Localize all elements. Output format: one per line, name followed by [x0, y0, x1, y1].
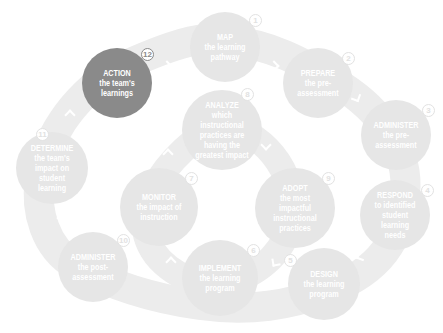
step-1-map-learning-pathway: 1 MAPthe learning pathway: [190, 12, 260, 82]
step-verb: RESPOND: [370, 190, 419, 200]
step-text: the pre-assessment: [293, 78, 342, 98]
step-text: the learning program: [193, 273, 247, 293]
step-11-determine-team-impact: 11 DETERMINEthe team's impact on student…: [16, 132, 88, 204]
step-4-respond-to-student-needs: 4 RESPONDto identified student learning …: [360, 180, 430, 250]
step-8-analyze-practices: 8 ANALYZEwhich instructional practices a…: [182, 90, 262, 170]
step-number-badge: 2: [342, 52, 355, 65]
step-verb: ADOPT: [266, 183, 324, 193]
step-number-badge: 11: [36, 128, 49, 141]
step-text: the post-assessment: [68, 262, 117, 282]
step-verb: DETERMINE: [27, 143, 78, 153]
step-verb: ACTION: [92, 68, 141, 78]
step-text: the learning pathway: [200, 42, 249, 62]
step-verb: ADMINISTER: [68, 252, 117, 262]
step-text: the learning program: [299, 279, 350, 299]
step-text: to identified student learning needs: [370, 200, 419, 240]
step-12-action-team-learnings: 12 ACTIONthe team's learnings: [82, 48, 152, 118]
step-6-implement-learning-program: 6 IMPLEMENTthe learning program: [182, 240, 258, 316]
step-verb: MAP: [200, 32, 249, 42]
step-verb: IMPLEMENT: [193, 263, 247, 273]
step-verb: MONITOR: [131, 192, 187, 202]
step-text: the impact of instruction: [131, 202, 187, 222]
step-2-prepare-pre-assessment: 2 PREPAREthe pre-assessment: [283, 48, 353, 118]
step-number-badge: 6: [247, 244, 260, 257]
step-verb: ADMINISTER: [371, 120, 420, 130]
step-7-monitor-impact: 7 MONITORthe impact of instruction: [120, 168, 198, 246]
step-number-badge: 3: [422, 104, 435, 117]
step-number-badge: 1: [249, 14, 262, 27]
step-5-design-learning-program: 5 DESIGNthe learning program: [288, 248, 360, 320]
step-text: the most impactful instructional practic…: [266, 193, 324, 233]
step-text: the team's learnings: [92, 78, 141, 98]
step-10-administer-post-assessment: 10 ADMINISTERthe post-assessment: [58, 232, 128, 302]
step-verb: DESIGN: [299, 269, 350, 279]
step-number-badge: 12: [141, 48, 154, 61]
arrow-chevron-icon: [271, 257, 280, 266]
step-text: which instructional practices are having…: [193, 110, 251, 160]
step-text: the pre-assessment: [371, 130, 420, 150]
step-number-badge: 7: [185, 172, 198, 185]
step-text: the team's impact on student learning: [27, 153, 78, 193]
step-number-badge: 5: [284, 254, 297, 267]
step-verb: PREPARE: [293, 68, 342, 78]
step-verb: ANALYZE: [193, 100, 251, 110]
step-9-adopt-practices: 9 ADOPTthe most impactful instructional …: [255, 168, 335, 248]
step-3-administer-pre-assessment: 3 ADMINISTERthe pre-assessment: [361, 100, 431, 170]
step-number-badge: 10: [117, 234, 130, 247]
cycle-diagram: 1 MAPthe learning pathway 2 PREPAREthe p…: [0, 0, 443, 333]
